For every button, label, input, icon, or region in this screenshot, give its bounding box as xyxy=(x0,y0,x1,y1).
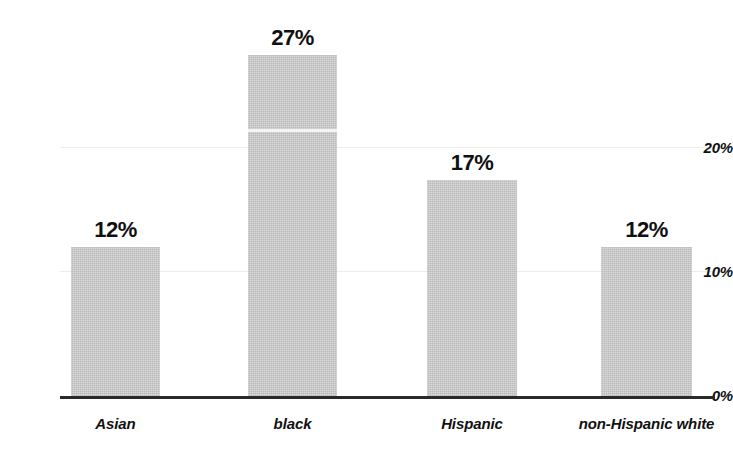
category-label-non-hispanic-white: non-Hispanic white xyxy=(571,416,722,431)
x-axis-baseline xyxy=(60,396,715,399)
gridline-20 xyxy=(60,147,715,148)
category-label-hispanic: Hispanic xyxy=(407,416,537,431)
bar-hispanic xyxy=(427,180,517,397)
value-label-non-hispanic-white: 12% xyxy=(601,219,692,241)
bar-black xyxy=(248,55,337,397)
category-label-asian: Asian xyxy=(51,416,180,431)
bar-asian xyxy=(71,247,160,397)
bar-non-hispanic-white xyxy=(601,247,692,397)
plot-area: 20% 10% 0% 12% 27% 17% 12% Asian black H… xyxy=(0,0,733,456)
bar-chart: 20% 10% 0% 12% 27% 17% 12% Asian black H… xyxy=(0,0,733,456)
scanline-artifact xyxy=(248,129,337,132)
category-label-black: black xyxy=(228,416,357,431)
value-label-hispanic: 17% xyxy=(427,152,517,174)
value-label-black: 27% xyxy=(248,27,337,49)
value-label-asian: 12% xyxy=(71,219,160,241)
y-axis-tick-20: 20% xyxy=(681,139,733,156)
